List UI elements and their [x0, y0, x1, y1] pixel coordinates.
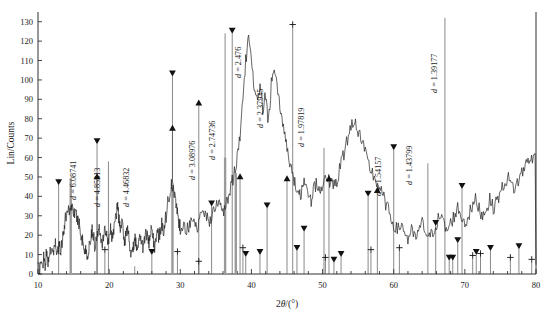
- plus-marker-71.1: [469, 252, 475, 258]
- d-label-2.476: d = 2.476: [234, 47, 243, 78]
- d-label-4.46832-text: d = 4.46832: [122, 168, 131, 207]
- y-tick-label-80: 80: [25, 114, 34, 124]
- d-label-1.39177-text: d = 1.39177: [430, 54, 439, 93]
- up-triangle-marker-45: [284, 175, 291, 181]
- d-value: = 1.97819: [297, 108, 306, 143]
- y-tick-label-100: 100: [20, 75, 33, 85]
- down-triangle-marker-69.6: [459, 183, 466, 189]
- plus-marker-38.8: [240, 245, 246, 251]
- plus-marker-76.4: [507, 254, 513, 260]
- down-triangle-marker-56.4: [365, 191, 372, 197]
- d-value: = 2.74736: [208, 121, 217, 156]
- d-label-1.54157-text: d = 1.54157: [374, 157, 383, 196]
- d-label-2.74736: d = 2.74736: [208, 121, 217, 160]
- d-label-3.08976-text: d = 3.08976: [188, 141, 197, 180]
- d-value: = 1.39177: [430, 54, 439, 89]
- y-tick-label-40: 40: [25, 191, 34, 201]
- y-tick-label-120: 120: [20, 36, 33, 46]
- down-triangle-marker-26: [148, 249, 155, 255]
- d-label-2.476-text: d = 2.476: [234, 47, 243, 78]
- down-triangle-marker-73.6: [487, 245, 494, 251]
- d-value: = 1.43799: [405, 146, 414, 181]
- d-spacing-labels-group: d = 6.08741d = 4.85313d = 4.46832d = 3.0…: [69, 47, 439, 207]
- d-value: = 2.37935: [256, 89, 265, 124]
- y-axis-title: Lin/Counts: [6, 121, 16, 164]
- d-label-1.97819-text: d = 1.97819: [297, 108, 306, 147]
- down-triangle-marker-46.4: [294, 245, 301, 251]
- d-label-1.39177: d = 1.39177: [430, 54, 439, 93]
- d-value: = 3.08976: [188, 141, 197, 176]
- down-triangle-marker-69: [454, 237, 461, 243]
- x-tick-label-30: 30: [176, 280, 185, 290]
- down-triangle-marker-42.2: [264, 202, 271, 208]
- d-value: = 2.476: [234, 47, 243, 74]
- d-value: = 4.46832: [122, 168, 131, 203]
- d-value: = 1.54157: [374, 157, 383, 192]
- down-triangle-marker-51.6: [331, 257, 338, 263]
- d-label-2.37935: d = 2.37935: [256, 89, 265, 128]
- y-tick-label-50: 50: [25, 172, 34, 182]
- down-triangle-marker-39.2: [242, 251, 249, 257]
- d-label-6.08741-text: d = 6.08741: [69, 161, 78, 200]
- d-value: = 6.08741: [69, 161, 78, 196]
- d-label-3.08976: d = 3.08976: [188, 141, 197, 180]
- chart-canvas: 0102030405060708090100110120130102030405…: [0, 0, 545, 313]
- y-tick-label-110: 110: [21, 56, 33, 66]
- d-label-6.08741: d = 6.08741: [69, 161, 78, 200]
- down-triangle-marker-77.6: [516, 243, 523, 249]
- plus-marker-45.8: [289, 21, 295, 27]
- d-value: = 4.85313: [93, 168, 102, 203]
- x-tick-label-80: 80: [532, 280, 541, 290]
- down-triangle-marker-71.6: [473, 249, 480, 255]
- y-tick-label-130: 130: [20, 17, 33, 27]
- down-triangle-marker-65.9: [432, 220, 439, 226]
- up-triangle-marker-38.4: [237, 173, 244, 179]
- d-label-1.43799: d = 1.43799: [405, 146, 414, 185]
- y-tick-label-20: 20: [25, 230, 34, 240]
- xrd-chart-figure: 0102030405060708090100110120130102030405…: [0, 0, 545, 313]
- x-tick-label-60: 60: [389, 280, 398, 290]
- d-label-1.43799-text: d = 1.43799: [405, 146, 414, 185]
- plus-marker-32.6: [196, 258, 202, 264]
- d-label-4.85313: d = 4.85313: [93, 168, 102, 207]
- x-tick-label-10: 10: [34, 280, 43, 290]
- x-axis-title: 2θ/(°): [276, 299, 298, 310]
- up-triangle-marker-32.6: [195, 100, 202, 106]
- down-triangle-marker-47.4: [301, 226, 308, 232]
- y-tick-label-30: 30: [25, 211, 34, 221]
- x-title-unit: /(°): [285, 299, 298, 310]
- d-label-2.37935-text: d = 2.37935: [256, 89, 265, 128]
- plus-marker-79.4: [529, 256, 535, 262]
- down-triangle-marker-37.3: [229, 28, 236, 34]
- y-tick-label-90: 90: [25, 94, 34, 104]
- plus-marker-50.4: [322, 254, 328, 260]
- x-tick-label-50: 50: [318, 280, 327, 290]
- d-label-4.85313-text: d = 4.85313: [93, 168, 102, 207]
- d-label-1.54157: d = 1.54157: [374, 157, 383, 196]
- x-tick-label-20: 20: [105, 280, 114, 290]
- d-label-1.97819: d = 1.97819: [297, 108, 306, 147]
- down-triangle-marker-12.9: [55, 179, 62, 185]
- down-triangle-marker-18.3: [94, 138, 101, 144]
- x-tick-label-70: 70: [461, 280, 470, 290]
- plus-marker-56.8: [368, 246, 374, 252]
- down-triangle-marker-28.9: [169, 70, 176, 76]
- up-triangle-marker-28.9: [169, 125, 176, 131]
- d-label-4.46832: d = 4.46832: [122, 168, 131, 207]
- down-triangle-marker-34.4: [208, 200, 215, 206]
- down-triangle-marker-52.6: [338, 251, 345, 257]
- down-triangle-marker-41.2: [257, 249, 264, 255]
- y-tick-label-70: 70: [25, 133, 34, 143]
- y-tick-label-60: 60: [25, 153, 34, 163]
- plus-marker-60.8: [396, 245, 402, 251]
- down-triangle-marker-60: [390, 144, 397, 150]
- y-tick-label-0: 0: [29, 269, 33, 279]
- plus-marker-29.6: [174, 248, 180, 254]
- y-tick-label-10: 10: [25, 250, 34, 260]
- x-tick-label-40: 40: [247, 280, 256, 290]
- peak-sticks-group: [59, 18, 532, 274]
- d-label-2.74736-text: d = 2.74736: [208, 121, 217, 160]
